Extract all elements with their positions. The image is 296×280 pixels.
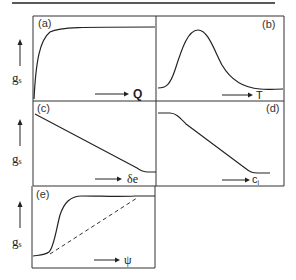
panel-label-c: (c) — [37, 102, 50, 114]
curve-e-linear-dashed — [50, 198, 137, 254]
xlabel-b: T — [256, 89, 263, 101]
panel-e: (e) ψ — [33, 188, 155, 267]
curve-b — [158, 30, 283, 89]
panel-a: (a) Q — [34, 17, 155, 101]
y-axis-markers: gs gs gs — [12, 39, 23, 249]
panel-frames — [32, 16, 284, 268]
panel-label-b: (b) — [262, 18, 275, 30]
xlabel-c: δe — [127, 172, 138, 186]
curve-c — [35, 114, 156, 172]
curve-d — [158, 113, 270, 173]
xlabel-e: ψ — [124, 253, 132, 267]
panel-d: (d) ci — [158, 102, 279, 186]
panel-label-d: (d) — [266, 102, 279, 114]
panel-label-a: (a) — [38, 17, 51, 29]
panel-label-e: (e) — [36, 188, 49, 200]
svg-text:gs: gs — [12, 151, 22, 166]
svg-text:gs: gs — [12, 70, 22, 85]
stomatal-conductance-figure: (a) Q (b) T (c) δe (d) ci (e) ψ — [0, 0, 296, 280]
svg-text:gs: gs — [12, 234, 22, 249]
panel-c: (c) δe — [35, 102, 156, 186]
xlabel-d: ci — [252, 173, 260, 186]
xlabel-a: Q — [133, 87, 142, 101]
panel-b: (b) T — [158, 18, 283, 101]
